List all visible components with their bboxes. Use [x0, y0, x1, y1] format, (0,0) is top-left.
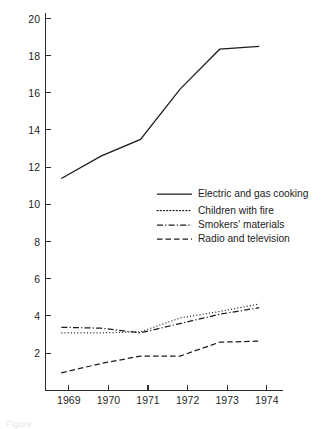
legend-label-smokers-materials: Smokers' materials	[198, 219, 284, 230]
y-axis-ticks: 20 18 16 14 12 10 8 6 4 2	[28, 13, 51, 360]
legend: Electric and gas cooking Children with f…	[157, 188, 309, 244]
x-axis-ticks: 1969 1970 1971 1972 1973 1974	[57, 385, 279, 406]
legend-label-electric-and-gas-cooking: Electric and gas cooking	[198, 188, 309, 199]
y-tick-label-2: 2	[34, 347, 40, 359]
series-line-smokers-materials	[61, 308, 259, 333]
y-tick-label-20: 20	[28, 13, 40, 25]
y-tick-label-16: 16	[28, 87, 40, 99]
legend-label-children-with-fire: Children with fire	[198, 205, 274, 216]
y-tick-label-18: 18	[28, 50, 40, 62]
legend-label-radio-and-television: Radio and television	[198, 233, 290, 244]
figure-container: 20 18 16 14 12 10 8 6 4 2 1969	[0, 0, 327, 429]
y-tick-label-4: 4	[34, 310, 40, 322]
y-tick-label-14: 14	[28, 124, 40, 136]
x-tick-label-1974: 1974	[255, 394, 279, 406]
x-tick-label-1972: 1972	[176, 394, 200, 406]
line-chart: 20 18 16 14 12 10 8 6 4 2 1969	[0, 0, 327, 429]
y-tick-label-12: 12	[28, 161, 40, 173]
y-tick-label-10: 10	[28, 198, 40, 210]
series-line-children-with-fire	[61, 304, 259, 333]
x-tick-label-1973: 1973	[216, 394, 240, 406]
y-tick-label-8: 8	[34, 236, 40, 248]
y-tick-label-6: 6	[34, 273, 40, 285]
series-line-electric-and-gas-cooking	[61, 46, 259, 178]
x-tick-label-1969: 1969	[57, 394, 81, 406]
series-line-radio-and-television	[61, 341, 259, 373]
x-tick-label-1970: 1970	[97, 394, 121, 406]
x-tick-label-1971: 1971	[136, 394, 160, 406]
caption-fragment: Figure	[6, 420, 156, 429]
